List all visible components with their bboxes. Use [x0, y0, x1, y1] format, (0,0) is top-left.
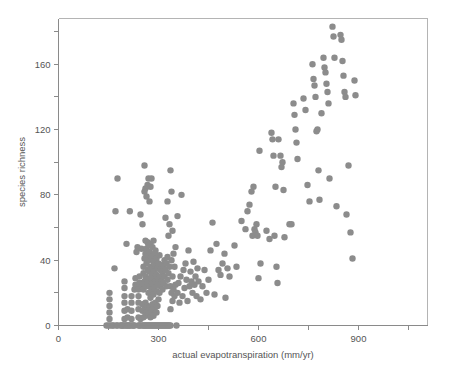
data-point: [106, 296, 112, 302]
data-point: [167, 306, 173, 312]
data-point: [167, 322, 173, 328]
data-point: [279, 159, 285, 165]
data-point: [242, 226, 248, 232]
data-point: [349, 255, 355, 261]
data-point: [169, 273, 175, 279]
data-point: [217, 272, 223, 278]
data-point: [156, 252, 162, 258]
data-point: [176, 299, 182, 305]
scatter-plot-figure: 0300600900 04080120160 actual evapotrans…: [0, 0, 450, 378]
data-point: [325, 100, 331, 106]
data-point: [213, 241, 219, 247]
scatter-plot-canvas: 0300600900 04080120160 actual evapotrans…: [0, 0, 450, 378]
data-point: [330, 33, 336, 39]
data-point: [190, 259, 196, 265]
data-point: [150, 237, 156, 243]
data-point: [256, 148, 262, 154]
svg-text:900: 900: [351, 333, 367, 344]
data-point: [351, 77, 357, 83]
data-point: [254, 232, 260, 238]
data-point: [281, 234, 287, 240]
svg-text:40: 40: [40, 255, 51, 266]
data-point: [106, 290, 112, 296]
data-point: [306, 198, 312, 204]
data-point: [141, 162, 147, 168]
data-point: [135, 293, 141, 299]
data-point: [106, 316, 112, 322]
data-point: [322, 69, 328, 75]
data-point: [148, 175, 154, 181]
svg-text:160: 160: [35, 59, 51, 70]
data-point: [121, 293, 127, 299]
data-point: [288, 221, 294, 227]
data-point: [345, 162, 351, 168]
svg-text:0: 0: [56, 333, 61, 344]
data-point: [106, 309, 112, 315]
y-axis-tick-labels: 04080120160: [35, 59, 51, 331]
data-point: [171, 264, 177, 270]
data-point: [333, 203, 339, 209]
data-point: [222, 295, 228, 301]
svg-text:80: 80: [40, 189, 51, 200]
data-point: [194, 265, 200, 271]
data-point: [184, 298, 190, 304]
data-point: [121, 278, 127, 284]
data-point: [180, 267, 186, 273]
data-point: [173, 322, 179, 328]
data-point: [324, 89, 330, 95]
data-point: [112, 208, 118, 214]
svg-text:300: 300: [151, 333, 167, 344]
data-point: [338, 37, 344, 43]
data-point: [205, 277, 211, 283]
data-point: [233, 264, 239, 270]
data-point: [179, 293, 185, 299]
data-point: [320, 54, 326, 60]
data-point: [127, 208, 133, 214]
data-point: [293, 139, 299, 145]
data-point: [187, 268, 193, 274]
data-point: [326, 175, 332, 181]
data-point: [244, 208, 250, 214]
data-point: [331, 54, 337, 60]
data-point: [318, 110, 324, 116]
data-point: [311, 82, 317, 88]
data-point: [291, 112, 297, 118]
data-point: [123, 241, 129, 247]
data-point: [111, 265, 117, 271]
svg-text:120: 120: [35, 124, 51, 135]
data-point: [203, 290, 209, 296]
data-point: [269, 136, 275, 142]
data-point: [197, 296, 203, 302]
data-point: [314, 126, 320, 132]
data-point: [128, 293, 134, 299]
data-point: [153, 309, 159, 315]
data-point: [309, 61, 315, 67]
data-point: [323, 81, 329, 87]
y-axis-label: species richness: [16, 137, 27, 207]
data-point: [302, 107, 308, 113]
data-point: [201, 267, 207, 273]
data-point: [128, 316, 134, 322]
data-points: [103, 23, 358, 328]
data-point: [174, 213, 180, 219]
data-point: [226, 273, 232, 279]
x-axis-label: actual evapotranspiration (mm/yr): [172, 349, 314, 360]
data-point: [175, 280, 181, 286]
data-point: [106, 303, 112, 309]
data-point: [207, 247, 213, 253]
data-point: [137, 211, 143, 217]
data-point: [277, 152, 283, 158]
data-point: [169, 228, 175, 234]
data-point: [300, 95, 306, 101]
data-point: [172, 244, 178, 250]
data-point: [221, 250, 227, 256]
data-point: [250, 184, 256, 190]
data-point: [147, 184, 153, 190]
data-point: [294, 156, 300, 162]
data-point: [343, 211, 349, 217]
data-point: [209, 219, 215, 225]
svg-text:600: 600: [251, 333, 267, 344]
data-point: [273, 264, 279, 270]
data-point: [146, 198, 152, 204]
data-point: [231, 242, 237, 248]
